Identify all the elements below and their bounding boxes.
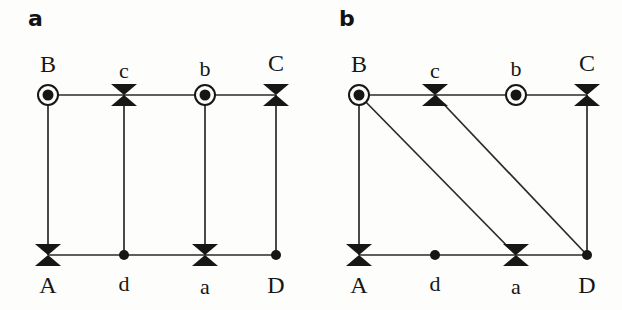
node-b: [195, 85, 215, 105]
bowtie-upper-triangle-icon: [35, 244, 61, 255]
bowtie-lower-triangle-icon: [263, 95, 289, 106]
node-d: [119, 250, 129, 260]
node-B: [38, 85, 58, 105]
node-label-b: b: [496, 58, 536, 80]
circle-center-dot-icon: [354, 90, 365, 101]
bowtie-lower-triangle-icon: [503, 255, 529, 266]
bowtie-upper-triangle-icon: [503, 244, 529, 255]
bowtie-upper-triangle-icon: [574, 84, 600, 95]
bowtie-upper-triangle-icon: [192, 244, 218, 255]
edge-c-D: [435, 95, 587, 255]
panel-b-graph: [311, 0, 622, 310]
panel-b: b BcbCAdaD: [311, 0, 622, 310]
circle-center-dot-icon: [43, 90, 54, 101]
node-label-c: c: [104, 60, 144, 82]
node-label-A: A: [339, 273, 379, 297]
filled-dot-icon: [271, 250, 281, 260]
panel-a-graph: [0, 0, 311, 310]
node-label-C: C: [256, 51, 296, 75]
node-B: [349, 85, 369, 105]
filled-dot-icon: [582, 250, 592, 260]
bowtie-lower-triangle-icon: [111, 95, 137, 106]
node-label-b: b: [185, 58, 225, 80]
bowtie-upper-triangle-icon: [346, 244, 372, 255]
panel-a: a BcbCAdaD: [0, 0, 311, 310]
node-label-c: c: [415, 60, 455, 82]
bowtie-upper-triangle-icon: [263, 84, 289, 95]
node-D: [582, 250, 592, 260]
bowtie-lower-triangle-icon: [346, 255, 372, 266]
node-label-a: a: [185, 276, 225, 298]
node-label-D: D: [256, 273, 296, 297]
circle-center-dot-icon: [511, 90, 522, 101]
bowtie-lower-triangle-icon: [574, 95, 600, 106]
bowtie-upper-triangle-icon: [111, 84, 137, 95]
node-label-d: d: [415, 273, 455, 295]
bowtie-lower-triangle-icon: [192, 255, 218, 266]
node-b: [506, 85, 526, 105]
node-label-d: d: [104, 273, 144, 295]
node-label-B: B: [339, 52, 379, 76]
node-d: [430, 250, 440, 260]
bowtie-lower-triangle-icon: [422, 95, 448, 106]
node-D: [271, 250, 281, 260]
edge-B-a: [359, 95, 516, 255]
figure-root: a BcbCAdaD b BcbCAdaD: [0, 0, 622, 310]
node-label-B: B: [28, 52, 68, 76]
node-label-D: D: [567, 273, 607, 297]
filled-dot-icon: [430, 250, 440, 260]
bowtie-upper-triangle-icon: [422, 84, 448, 95]
node-label-a: a: [496, 276, 536, 298]
bowtie-lower-triangle-icon: [35, 255, 61, 266]
node-label-A: A: [28, 273, 68, 297]
filled-dot-icon: [119, 250, 129, 260]
circle-center-dot-icon: [200, 90, 211, 101]
node-label-C: C: [567, 51, 607, 75]
